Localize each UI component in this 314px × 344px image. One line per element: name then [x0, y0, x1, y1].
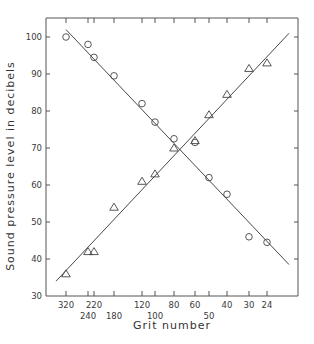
y-tick-label: 70	[31, 143, 42, 153]
circle-marker	[171, 135, 178, 142]
x-axis: 320220120806040302424018010050	[58, 18, 273, 321]
y-tick-label: 40	[31, 254, 42, 264]
x-tick-label: 320	[58, 300, 74, 310]
fit-line	[56, 33, 289, 281]
y-axis: 30405060708090100	[26, 32, 298, 301]
circle-marker	[85, 41, 92, 48]
triangle-marker	[84, 248, 93, 255]
y-tick-label: 30	[31, 291, 42, 301]
x-tick-label: 40	[222, 300, 233, 310]
triangle-marker	[110, 203, 119, 210]
y-tick-label: 60	[31, 180, 42, 190]
chart: 30405060708090100 3202201208060403024240…	[0, 0, 314, 344]
fit-lines	[56, 30, 289, 282]
x-tick-label: 240	[80, 311, 96, 321]
triangle-marker	[170, 144, 179, 151]
circle-marker	[224, 191, 231, 198]
x-tick-label: 60	[190, 300, 201, 310]
data-points	[62, 34, 272, 277]
y-axis-title: Sound pressure level in decibels	[4, 61, 17, 271]
y-tick-label: 100	[26, 32, 42, 42]
x-tick-label: 220	[86, 300, 102, 310]
y-tick-label: 80	[31, 106, 42, 116]
circle-marker	[111, 73, 118, 80]
y-tick-label: 90	[31, 69, 42, 79]
x-tick-label: 30	[244, 300, 255, 310]
triangle-marker	[245, 64, 254, 71]
triangle-marker	[90, 248, 99, 255]
x-tick-label: 180	[106, 311, 122, 321]
circle-marker	[152, 119, 159, 126]
circle-marker	[264, 239, 271, 246]
x-tick-label: 120	[134, 300, 150, 310]
circle-marker	[246, 234, 253, 241]
circle-marker	[139, 100, 146, 107]
circle-marker	[63, 34, 70, 41]
triangle-marker	[138, 177, 147, 184]
y-tick-label: 50	[31, 217, 42, 227]
x-axis-title: Grit number	[133, 319, 211, 332]
x-tick-label: 80	[169, 300, 180, 310]
triangle-marker	[205, 111, 214, 118]
fit-line	[66, 30, 289, 265]
x-tick-label: 24	[262, 300, 273, 310]
